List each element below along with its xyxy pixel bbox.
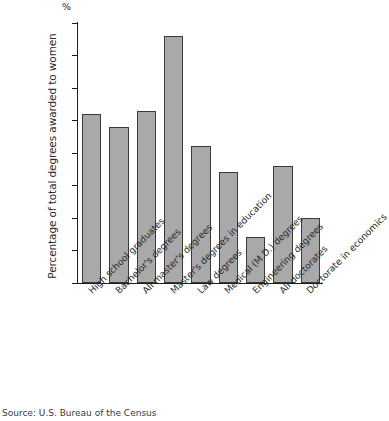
y-axis-tick	[72, 218, 77, 219]
y-axis-tick	[72, 185, 77, 186]
plot-area: 80706050403020100	[77, 22, 323, 284]
y-axis-tick	[72, 88, 77, 89]
y-axis-tick	[72, 283, 77, 284]
y-axis-tick	[72, 120, 77, 121]
source-note: Source: U.S. Bureau of the Census	[2, 408, 156, 419]
y-axis-tick	[72, 153, 77, 154]
y-axis-tick	[72, 250, 77, 251]
y-axis-tick	[72, 23, 77, 24]
y-axis-tick	[72, 55, 77, 56]
bar	[82, 114, 101, 283]
y-axis-title: Percentage of total degrees awarded to w…	[44, 19, 60, 294]
y-axis-unit-symbol: %	[62, 1, 71, 12]
y-axis-line	[77, 22, 78, 284]
